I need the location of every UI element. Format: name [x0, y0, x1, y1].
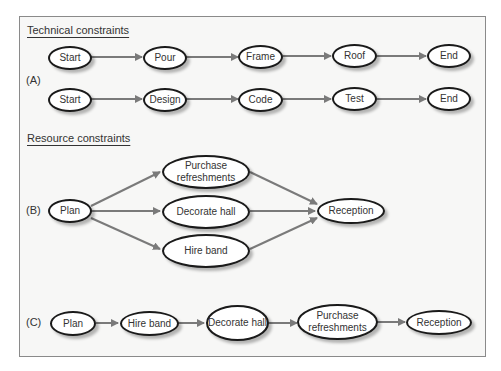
node-reception: Reception	[406, 310, 472, 335]
technical-constraints-heading: Technical constraints	[27, 24, 129, 36]
node-end: End	[427, 87, 471, 111]
node-test: Test	[332, 87, 377, 111]
node-plan: Plan	[48, 199, 92, 223]
node-end: End	[427, 44, 471, 68]
node-frame: Frame	[238, 45, 283, 69]
node-purchase-refreshments: Purchase refreshments	[162, 155, 250, 189]
node-purchase-refreshments: Purchase refreshments	[297, 304, 378, 340]
node-hire-band: Hire band	[162, 234, 250, 268]
node-plan: Plan	[50, 311, 96, 336]
resource-constraints-heading: Resource constraints	[27, 132, 130, 144]
section-label-b: (B)	[26, 204, 41, 216]
node-pour: Pour	[143, 46, 187, 70]
node-reception: Reception	[317, 198, 385, 224]
node-decorate-hall: Decorate hall	[162, 195, 250, 229]
node-code: Code	[238, 88, 283, 112]
node-hire-band: Hire band	[120, 311, 179, 336]
section-label-c: (C)	[26, 316, 41, 328]
section-label-a: (A)	[26, 74, 41, 86]
node-decorate-hall: Decorate hall	[206, 305, 269, 341]
node-start: Start	[48, 46, 92, 70]
node-roof: Roof	[332, 44, 377, 68]
node-design: Design	[143, 88, 187, 112]
node-start: Start	[48, 88, 92, 112]
